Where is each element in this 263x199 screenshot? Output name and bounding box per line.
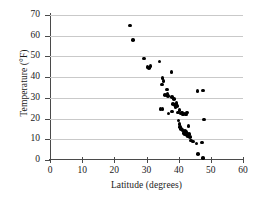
data-point xyxy=(195,142,199,146)
data-point xyxy=(187,124,191,128)
y-axis-tick-label: 10 xyxy=(10,134,40,144)
plot-area xyxy=(50,15,243,160)
data-point xyxy=(196,152,200,156)
data-point xyxy=(174,105,178,109)
data-point xyxy=(128,24,132,28)
y-axis-tick-label: 40 xyxy=(10,72,40,82)
data-point xyxy=(131,38,135,42)
x-axis-tick xyxy=(211,157,212,163)
data-point xyxy=(161,107,165,111)
data-point xyxy=(172,97,176,101)
x-axis-tick-label: 30 xyxy=(132,165,162,175)
x-axis-tick xyxy=(114,157,115,163)
y-axis-tick-label: 60 xyxy=(10,31,40,41)
data-point xyxy=(201,156,205,160)
gridline xyxy=(50,119,243,120)
data-point xyxy=(160,83,164,87)
gridline xyxy=(50,36,243,37)
x-axis-tick-label: 60 xyxy=(228,165,258,175)
data-point xyxy=(201,89,205,93)
x-axis-tick xyxy=(50,157,51,163)
data-point xyxy=(185,111,189,115)
data-point xyxy=(166,94,170,98)
data-point xyxy=(142,57,146,61)
gridline xyxy=(50,139,243,140)
gridline xyxy=(50,98,243,99)
data-point xyxy=(165,88,169,92)
data-point xyxy=(196,89,200,93)
data-point xyxy=(202,118,206,122)
data-point xyxy=(149,64,153,68)
x-axis-tick-label: 0 xyxy=(35,165,65,175)
y-axis-tick-label: 50 xyxy=(10,51,40,61)
gridline xyxy=(50,56,243,57)
x-axis-tick xyxy=(243,157,244,163)
y-axis-tick-label: 0 xyxy=(10,155,40,165)
data-point xyxy=(200,141,204,145)
x-axis-tick-label: 50 xyxy=(196,165,226,175)
x-axis-tick xyxy=(179,157,180,163)
y-axis-tick-label: 70 xyxy=(10,10,40,20)
x-axis-tick-label: 20 xyxy=(99,165,129,175)
scatter-plot-figure: Temperature (°F) 010203040506070 0102030… xyxy=(0,0,263,199)
x-axis-title: Latitude (degrees) xyxy=(50,180,243,191)
gridline xyxy=(50,15,243,16)
data-point xyxy=(170,70,174,74)
y-axis-tick-label: 20 xyxy=(10,114,40,124)
x-axis-tick-label: 40 xyxy=(164,165,194,175)
x-axis-tick xyxy=(147,157,148,163)
x-axis-tick xyxy=(82,157,83,163)
gridline xyxy=(50,77,243,78)
x-axis-tick-label: 10 xyxy=(67,165,97,175)
data-point xyxy=(158,60,162,64)
data-point xyxy=(175,101,179,105)
y-axis-tick-label: 30 xyxy=(10,93,40,103)
data-point xyxy=(170,110,174,114)
